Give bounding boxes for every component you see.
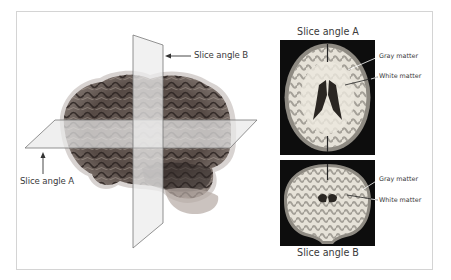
mri-coronal-slice: [0, 0, 451, 280]
slice-b-gray-matter-label: Gray matter: [379, 175, 418, 183]
slice-b-title: Slice angle B: [280, 247, 376, 258]
slice-b-white-matter-label: White matter: [379, 196, 421, 204]
